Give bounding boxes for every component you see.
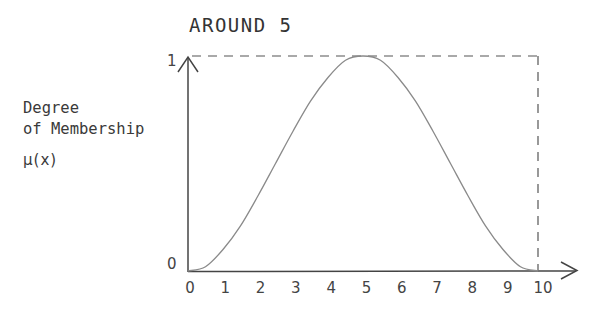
membership-curve [188, 56, 538, 271]
x-axis-line [188, 271, 576, 272]
plot-area [0, 0, 600, 311]
